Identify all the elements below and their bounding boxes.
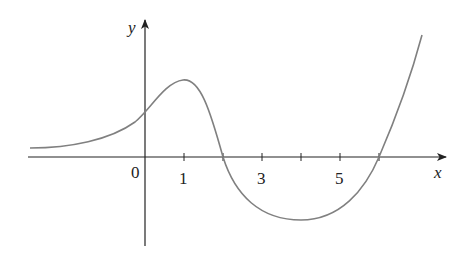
function-graph: y x 0 1 3 5	[0, 0, 462, 256]
y-axis-label: y	[126, 18, 136, 37]
tick-label-1: 1	[179, 169, 188, 188]
tick-label-3: 3	[257, 169, 266, 188]
tick-label-5: 5	[335, 169, 344, 188]
x-axis-label: x	[433, 163, 442, 182]
function-curve	[30, 35, 422, 220]
origin-label: 0	[131, 163, 140, 182]
